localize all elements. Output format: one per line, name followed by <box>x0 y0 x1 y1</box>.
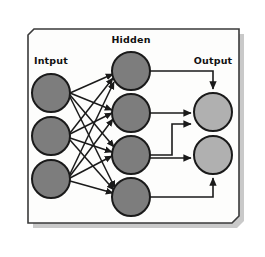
output-node-1 <box>194 93 232 131</box>
hidden-node-2 <box>112 94 150 132</box>
hidden-node-1 <box>112 52 150 90</box>
neural-network-diagram: ​ ​ <box>0 0 265 257</box>
output-node-2 <box>194 136 232 174</box>
hidden-node-3 <box>112 136 150 174</box>
input-node-3 <box>32 160 70 198</box>
diagram-canvas: ​ ​ <box>0 0 265 257</box>
input-node-1 <box>32 74 70 112</box>
input-layer-nodes <box>32 74 70 198</box>
input-node-2 <box>32 117 70 155</box>
output-layer-label: Output <box>194 55 233 66</box>
input-layer-label: Intput <box>34 55 68 66</box>
hidden-node-4 <box>112 178 150 216</box>
hidden-layer-label: Hidden <box>111 34 150 45</box>
